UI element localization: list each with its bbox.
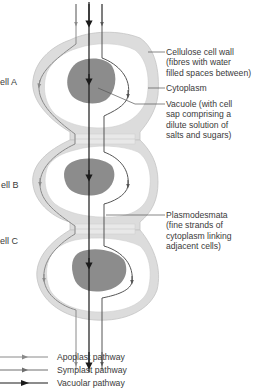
legend-apoplast-label: Apoplast pathway [57, 352, 125, 362]
cell-c-vacuole [72, 249, 126, 291]
annotation-cytoplasm: Cytoplasm [166, 83, 207, 93]
cell-a-vacuole [67, 59, 115, 104]
cell-a-label: ell A [0, 77, 17, 87]
annotation-cell-wall: Cellulose cell wall (fibres with water f… [166, 47, 251, 78]
legend-vacuolar-arrow-icon [21, 380, 29, 386]
legend-apoplast-arrow-icon [22, 355, 28, 360]
legend-lines [0, 355, 48, 387]
legend-vacuolar-label: Vacuolar pathway [57, 378, 125, 388]
cell-c-label: ell C [0, 236, 18, 246]
annotation-plasmodesmata: Plasmodesmata (fine strands of cytoplasm… [166, 210, 231, 252]
legend-symplast-label: Symplast pathway [57, 365, 127, 375]
cell-b-label: ell B [1, 180, 19, 190]
legend-symplast-arrow-icon [22, 368, 28, 373]
annotation-vacuole: Vacuole (with cell sap comprising a dilu… [166, 99, 232, 141]
